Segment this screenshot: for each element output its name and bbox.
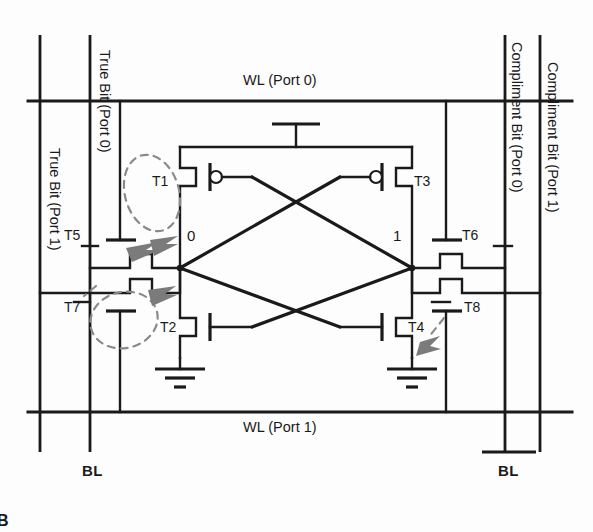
bitline-label-compliment-port0: Compliment Bit (Port 0) (510, 42, 525, 193)
storage-node-label-q: 0 (187, 228, 195, 243)
transistor-label-T5: T5 (64, 228, 80, 242)
transistor-label-T3: T3 (414, 174, 430, 188)
wordline-port1-branch-left (106, 311, 136, 412)
schematic-canvas: .wire { stroke: #1a1a1a; stroke-width: 2… (0, 0, 593, 532)
transistor-label-T2: T2 (160, 320, 176, 334)
transistor-T8 (412, 268, 540, 293)
storage-node-markers (177, 265, 415, 271)
vdd-symbol (272, 124, 320, 147)
footer-label-bl-left: BL (82, 463, 103, 478)
ground-right (387, 358, 437, 387)
transistor-T3 (340, 147, 412, 268)
transistor-T6 (412, 254, 505, 268)
transistor-label-T7: T7 (64, 300, 80, 314)
wordline-port0-branch-right (432, 101, 462, 240)
bitline-label-true-port0: True Bit (Port 0) (98, 50, 113, 153)
wordline-label-port0: WL (Port 0) (243, 73, 317, 88)
footer-label-bl-right: BL (498, 463, 519, 478)
wordline-port1-branch-right (432, 311, 462, 412)
cross-couple-wires (180, 177, 412, 327)
transistor-label-T4: T4 (408, 320, 424, 334)
transistor-label-T6: T6 (462, 228, 478, 242)
transistor-label-T1: T1 (152, 174, 168, 188)
cropped-edge-glyph: B (0, 512, 9, 532)
storage-node-label-qbar: 1 (393, 228, 401, 243)
wordline-label-port1: WL (Port 1) (243, 420, 317, 435)
annotation-ellipse-T1 (115, 148, 188, 262)
bitline-label-compliment-port1: Compliment Bit (Port 1) (546, 62, 561, 213)
bitline-label-true-port1: True Bit (Port 1) (48, 148, 63, 251)
transistor-T1 (180, 147, 252, 268)
ground-left (155, 358, 205, 387)
transistor-label-T8: T8 (464, 300, 480, 314)
